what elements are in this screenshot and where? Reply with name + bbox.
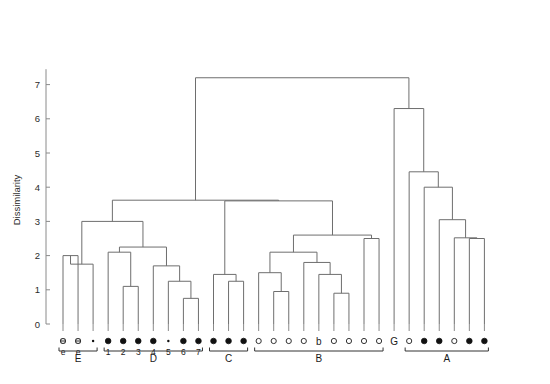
leaf-markers (61, 338, 488, 344)
y-tick-label: 5 (35, 148, 40, 159)
leaf-label: e (61, 347, 66, 357)
y-tick-label: 6 (35, 113, 40, 124)
leaf-label: 5 (166, 347, 171, 357)
y-axis-title: Dissimilarity (11, 174, 22, 225)
leaf-label: 6 (181, 347, 186, 357)
leaf-marker-filled (151, 338, 157, 344)
dendrogram-figure: 01234567 Dissimilarity ee1234567bG EDCBA (0, 0, 550, 384)
leaf-marker-open (346, 338, 351, 343)
leaf-marker-open (376, 338, 381, 343)
leaf-marker-filled (421, 338, 427, 344)
leaf-marker-open (286, 338, 291, 343)
leaf-marker-filled (241, 338, 247, 344)
plot-background (0, 0, 550, 384)
dendrogram-plot: 01234567 Dissimilarity ee1234567bG EDCBA (0, 0, 550, 384)
leaf-marker-open (452, 338, 457, 343)
leaf-label: 1 (106, 347, 111, 357)
leaf-label-b: b (316, 336, 322, 347)
y-tick-label: 1 (35, 284, 40, 295)
leaf-marker-filled (467, 338, 473, 344)
leaf-label: 2 (121, 347, 126, 357)
group-label-A: A (443, 353, 450, 364)
leaf-marker-filled (135, 338, 141, 344)
y-axis-title-text: Dissimilarity (11, 174, 22, 225)
leaf-label: 3 (136, 347, 141, 357)
leaf-marker-open (256, 338, 261, 343)
y-tick-label: 4 (35, 182, 40, 193)
leaf-marker-filled (105, 338, 111, 344)
leaf-marker-filled (436, 338, 442, 344)
leaf-marker-open (271, 338, 276, 343)
group-label-C: C (225, 353, 232, 364)
group-label-D: D (150, 353, 157, 364)
leaf-marker-filled (211, 338, 217, 344)
leaf-label-G: G (390, 336, 398, 347)
leaf-marker-dot (92, 340, 94, 342)
leaf-marker-filled (482, 338, 488, 344)
leaf-marker-open (407, 338, 412, 343)
y-tick-label: 0 (35, 319, 40, 330)
leaf-label: 7 (196, 347, 201, 357)
leaf-marker-filled (181, 338, 187, 344)
leaf-marker-open (301, 338, 306, 343)
leaf-marker-filled (120, 338, 126, 344)
leaf-marker-open (361, 338, 366, 343)
leaf-marker-filled (196, 338, 202, 344)
leaf-marker-open (331, 338, 336, 343)
group-label-B: B (316, 353, 323, 364)
y-tick-label: 7 (35, 79, 40, 90)
y-tick-label: 2 (35, 250, 40, 261)
leaf-marker-filled (226, 338, 232, 344)
y-tick-label: 3 (35, 216, 40, 227)
leaf-marker-dot (167, 340, 169, 342)
group-label-E: E (75, 353, 82, 364)
